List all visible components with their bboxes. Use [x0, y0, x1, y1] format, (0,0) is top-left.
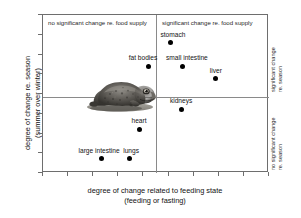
side-annotation-upper: significant change re. season	[270, 12, 283, 92]
side-annotation-upper-line2: re. season	[277, 12, 284, 92]
side-annotation-lower-line2: re. season	[277, 90, 284, 170]
side-annotation-upper-line1: significant change	[270, 47, 276, 92]
side-annotation-lower-line1: no significant change	[270, 117, 276, 170]
data-point-label: fat bodies	[129, 54, 158, 62]
x-axis-title-line2: (feeding or fasting)	[42, 196, 268, 206]
x-axis-tick	[42, 172, 43, 176]
x-axis-tick	[193, 172, 194, 176]
data-point[interactable]	[99, 156, 104, 161]
x-axis-tick	[168, 172, 169, 176]
x-axis-tick	[268, 172, 269, 176]
data-point[interactable]	[213, 76, 218, 81]
data-point-label: small intestine	[166, 54, 208, 62]
x-axis-tick	[117, 172, 118, 176]
data-point[interactable]	[146, 64, 151, 69]
data-point-label: large intestine	[79, 147, 120, 155]
data-point-label: lungs	[123, 147, 139, 155]
data-point[interactable]	[168, 40, 173, 45]
y-axis-title-line1: degree of change re. season	[23, 56, 32, 150]
plot-area: no significant change re. food supply si…	[42, 14, 268, 172]
quadrant-header-top-left: no significant change re. food supply	[48, 19, 147, 27]
data-point[interactable]	[127, 156, 132, 161]
x-axis-title-line1: degree of change related to feeding stat…	[88, 186, 223, 195]
data-point-label: kidneys	[170, 97, 192, 105]
x-axis-tick	[243, 172, 244, 176]
x-axis-tick	[92, 172, 93, 176]
x-axis-title: degree of change related to feeding stat…	[42, 186, 268, 206]
side-annotation-lower: no significant change re. season	[270, 90, 283, 170]
scatter-plot-figure: degree of change re. season (summer over…	[0, 0, 301, 218]
x-axis-tick	[142, 172, 143, 176]
data-point[interactable]	[179, 107, 184, 112]
data-point-label: liver	[210, 67, 222, 75]
data-point-label: stomach	[160, 31, 185, 39]
y-axis-title: degree of change re. season (summer over…	[23, 8, 43, 198]
data-point[interactable]	[137, 127, 142, 132]
x-axis-tick	[67, 172, 68, 176]
data-point-label: heart	[132, 117, 147, 125]
quadrant-header-top-right: significant change re. food supply	[162, 19, 252, 27]
frog-photograph	[86, 70, 158, 112]
x-axis-tick	[218, 172, 219, 176]
data-point[interactable]	[180, 64, 185, 69]
